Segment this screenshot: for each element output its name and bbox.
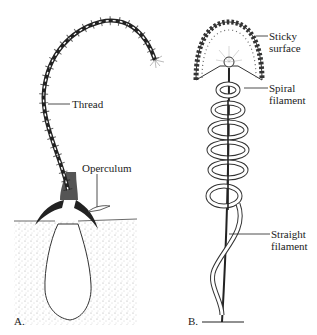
straight-filament-label-line2: filament xyxy=(271,240,308,252)
spiral-filament-label-line2: filament xyxy=(269,94,306,106)
spiral-filament-label-line1: Spiral xyxy=(269,82,295,94)
straight-filament-label-line1: Straight xyxy=(271,228,306,240)
sticky-surface-label-line1: Sticky xyxy=(269,30,297,42)
operculum-flap xyxy=(88,206,110,212)
panel-a-label: A. xyxy=(14,315,25,327)
sticky-surface-label-line2: surface xyxy=(269,42,301,54)
panel-b-illustration xyxy=(196,22,270,322)
thread-label: Thread xyxy=(72,98,103,110)
operculum-label: Operculum xyxy=(82,162,131,174)
panel-b-label: B. xyxy=(188,315,198,327)
